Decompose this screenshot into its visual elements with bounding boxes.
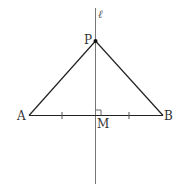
point-m-label: M (97, 117, 109, 131)
segment-pa (29, 41, 96, 116)
point-b-label: B (164, 109, 173, 123)
point-p-dot (94, 39, 98, 43)
right-angle-marker (96, 110, 102, 116)
segment-pb (96, 41, 164, 116)
line-l-label: ℓ (98, 8, 103, 21)
diagram-canvas: ℓ P A B M (0, 0, 186, 191)
point-a-label: A (16, 109, 26, 123)
point-p-label: P (84, 33, 92, 47)
